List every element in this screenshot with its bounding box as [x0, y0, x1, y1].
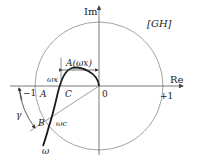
tick-minus-one: −1 [23, 88, 36, 98]
tick-plus-one: +1 [160, 91, 173, 101]
point-a-label: A [39, 89, 47, 99]
nyquist-diagram: Im [GH] Re +1 0 −1 A C B A(ωx) ωx ωc γ ω [0, 0, 197, 164]
plane-label: [GH] [147, 18, 172, 29]
point-b-label: B [37, 118, 45, 128]
tick-zero: 0 [102, 89, 108, 99]
phase-margin-label: γ [16, 110, 22, 120]
real-axis-label: Re [170, 74, 184, 85]
phase-crossover-label: ωx [47, 75, 59, 84]
gain-crossover-label: ωc [56, 119, 68, 128]
gain-margin-label: A(ωx) [65, 58, 92, 68]
frequency-label: ω [42, 146, 50, 156]
point-c-label: C [65, 89, 72, 99]
imag-axis-label: Im [84, 6, 98, 17]
